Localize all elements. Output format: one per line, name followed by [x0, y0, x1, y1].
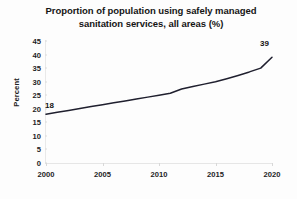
y-tick-mark [45, 135, 47, 136]
chart-title-line-2: sanitation services, all areas (%) [26, 18, 276, 31]
y-tick-mark [45, 54, 47, 55]
y-tick-label-15: 15 [21, 118, 41, 127]
data-label-start: 18 [45, 101, 54, 110]
x-tick-mark [46, 163, 47, 166]
y-tick-label-20: 20 [21, 104, 41, 113]
y-tick-mark [45, 81, 47, 82]
y-tick-label-5: 5 [21, 145, 41, 154]
y-tick-label-10: 10 [21, 131, 41, 140]
chart-title: Proportion of population using safely ma… [26, 5, 276, 30]
y-tick-mark [45, 149, 47, 150]
x-tick-label-2015: 2015 [196, 170, 236, 179]
y-tick-mark [45, 68, 47, 69]
x-tick-mark [272, 163, 273, 166]
y-tick-mark [45, 95, 47, 96]
series-polyline [46, 57, 272, 114]
y-tick-mark [45, 122, 47, 123]
chart-title-line-1: Proportion of population using safely ma… [26, 5, 276, 18]
y-tick-label-30: 30 [21, 77, 41, 86]
x-tick-label-2000: 2000 [26, 170, 66, 179]
x-tick-mark [216, 163, 217, 166]
x-tick-label-2010: 2010 [139, 170, 179, 179]
y-tick-label-35: 35 [21, 64, 41, 73]
x-tick-mark [103, 163, 104, 166]
chart-container: Proportion of population using safely ma… [0, 0, 297, 199]
y-tick-label-45: 45 [21, 37, 41, 46]
y-tick-label-40: 40 [21, 50, 41, 59]
y-tick-mark [45, 41, 47, 42]
y-tick-label-0: 0 [21, 159, 41, 168]
data-label-end: 39 [260, 39, 269, 48]
x-tick-label-2005: 2005 [83, 170, 123, 179]
y-tick-label-25: 25 [21, 91, 41, 100]
x-tick-label-2020: 2020 [252, 170, 292, 179]
x-tick-mark [159, 163, 160, 166]
